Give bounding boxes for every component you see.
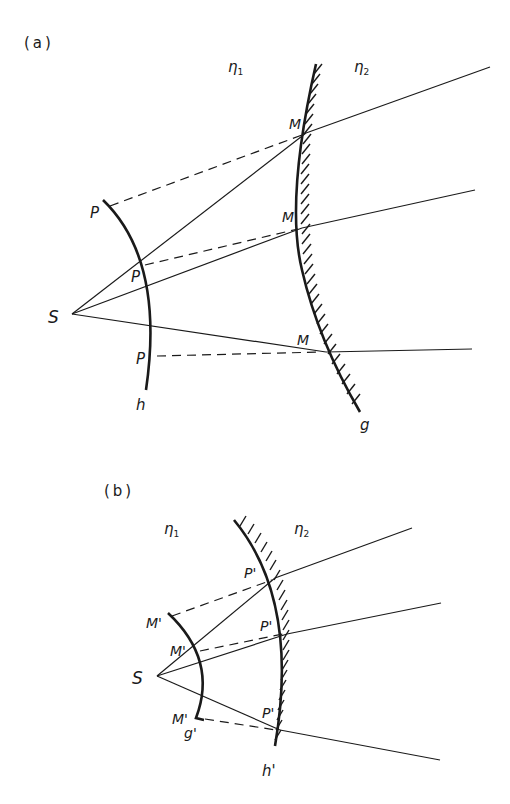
point-p-a-2: P: [131, 268, 141, 286]
ray-a-1-out: [306, 67, 490, 133]
ray-b-2-out: [287, 603, 441, 634]
ray-a-2-out: [302, 190, 475, 228]
mirror-surface-g: [296, 64, 360, 412]
medium-eta2-a: η2: [354, 58, 369, 77]
point-m-prime-b-2: M': [170, 643, 186, 659]
optics-diagram: (a) η1 η2 g h S: [0, 0, 510, 804]
dashed-pm-a-2: [145, 229, 298, 265]
dashed-pm-a-3: [157, 352, 322, 356]
point-m-a-3: M: [297, 332, 309, 348]
mirror-surface-h-prime: [234, 520, 282, 746]
source-label-s-a: S: [48, 307, 59, 327]
ray-a-1: [72, 133, 306, 314]
point-p-a-3: P: [136, 350, 146, 368]
wavefront-label-h: h: [136, 396, 146, 414]
ray-b-1: [157, 578, 275, 676]
panel-a: (a) η1 η2 g h S: [24, 34, 490, 434]
wavefront-label-g-prime: g': [184, 725, 197, 741]
dashed-mp-b-1: [172, 580, 272, 616]
point-p-prime-b-2: P': [260, 618, 272, 634]
medium-eta1-b: η1: [164, 520, 179, 539]
medium-eta1-a: η1: [228, 58, 243, 77]
ray-a-3: [72, 314, 326, 352]
panel-b: (b) η1 η2 h' g' S: [104, 482, 441, 780]
point-m-a-2: M: [282, 209, 294, 225]
point-m-prime-b-3: M': [172, 711, 188, 727]
mirror-label-h-prime: h': [262, 762, 276, 780]
ray-a-3-out: [326, 349, 472, 352]
point-p-prime-b-1: P': [244, 565, 256, 581]
point-m-prime-b-1: M': [146, 615, 162, 631]
dashed-pm-a-1: [110, 135, 302, 206]
point-p-prime-b-3: P': [262, 705, 274, 721]
medium-eta2-b: η2: [294, 520, 309, 539]
point-m-a-1: M: [289, 116, 301, 132]
panel-a-label: (a): [24, 34, 54, 52]
mirror-label-g: g: [360, 416, 370, 434]
source-label-s-b: S: [132, 668, 143, 688]
ray-b-3-out: [280, 730, 440, 760]
panel-b-label: (b): [104, 482, 134, 500]
point-p-a-1: P: [90, 204, 100, 222]
ray-a-2: [72, 228, 302, 314]
